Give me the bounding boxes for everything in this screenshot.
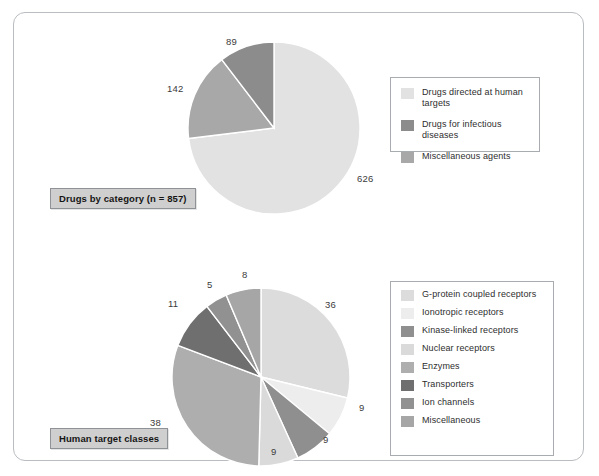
legend-item: Drugs for infectious diseases: [401, 119, 531, 141]
legend-item-label: G-protein coupled receptors: [422, 289, 536, 300]
legend-item-label: Nuclear receptors: [422, 343, 495, 354]
legend-item-label: Drugs for infectious diseases: [422, 119, 531, 141]
legend-item: Ionotropic receptors: [401, 307, 545, 319]
pie-slice-label-9-ionotropic: 9: [359, 403, 364, 413]
legend-item-label: Ion channels: [422, 397, 474, 408]
legend-swatch-miscellaneous: [401, 416, 414, 427]
legend-item: Drugs directed at human targets: [401, 87, 531, 109]
legend-swatch-enzymes: [401, 362, 414, 373]
legend-item: Transporters: [401, 379, 545, 391]
legend-swatch-gpcr: [401, 290, 414, 301]
pie-slice-label-36: 36: [325, 300, 336, 310]
legend-item: Kinase-linked receptors: [401, 325, 545, 337]
legend-human-target-classes: G-protein coupled receptors Ionotropic r…: [390, 281, 554, 456]
legend-item-label: Ionotropic receptors: [422, 307, 504, 318]
legend-item-label: Transporters: [422, 379, 474, 390]
figure-frame: 626 142 89 Drugs directed at human targe…: [13, 12, 584, 461]
pie-slice-label-89: 89: [226, 37, 237, 47]
legend-swatch-ionotropic: [401, 308, 414, 319]
legend-item-label: Miscellaneous: [422, 415, 480, 426]
legend-item-label: Drugs directed at human targets: [422, 87, 531, 109]
pie-slice-label-38: 38: [150, 418, 161, 428]
legend-swatch-transporters: [401, 380, 414, 391]
pie-chart-drugs-by-category-svg: [184, 38, 364, 218]
legend-swatch-infectious-diseases: [401, 120, 414, 131]
pie-chart-drugs-by-category: [184, 38, 364, 218]
caption-drugs-by-category: Drugs by category (n = 857): [50, 188, 196, 209]
pie-slice-label-8: 8: [242, 270, 247, 280]
legend-drugs-by-category: Drugs directed at human targets Drugs fo…: [390, 77, 540, 152]
legend-swatch-kinase: [401, 326, 414, 337]
legend-item: Nuclear receptors: [401, 343, 545, 355]
caption-human-target-classes: Human target classes: [50, 428, 168, 449]
pie-slice-label-9-kinase: 9: [323, 435, 328, 445]
legend-swatch-nuclear: [401, 344, 414, 355]
pie-slice-label-142: 142: [167, 84, 183, 94]
legend-item-label: Kinase-linked receptors: [422, 325, 518, 336]
legend-item: Ion channels: [401, 397, 545, 409]
legend-swatch-ion-channels: [401, 398, 414, 409]
legend-item: Enzymes: [401, 361, 545, 373]
legend-swatch-human-targets: [401, 88, 414, 99]
legend-item: Miscellaneous: [401, 415, 545, 427]
pie-slice-label-11: 11: [168, 299, 178, 309]
pie-slice-label-626: 626: [357, 174, 373, 184]
panel-human-target-classes: 36 9 9 9 38 11 5 8 G-protein coupled rec…: [14, 238, 585, 462]
legend-item-label: Miscellaneous agents: [422, 151, 511, 162]
pie-slice-label-5: 5: [207, 280, 212, 290]
legend-item: Miscellaneous agents: [401, 151, 531, 163]
legend-swatch-misc-agents: [401, 152, 414, 163]
panel-drugs-by-category: 626 142 89 Drugs directed at human targe…: [14, 13, 585, 238]
pie-slice-label-9-nuclear: 9: [271, 447, 276, 457]
legend-item: G-protein coupled receptors: [401, 289, 545, 301]
legend-item-label: Enzymes: [422, 361, 460, 372]
